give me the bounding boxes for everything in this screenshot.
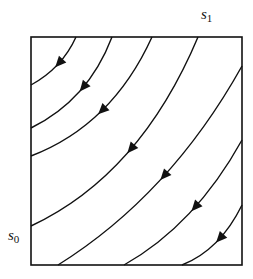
flow-curves xyxy=(31,37,242,265)
label-s1-sub: 1 xyxy=(207,12,213,24)
flow-diagram xyxy=(0,0,253,279)
flow-curve-2 xyxy=(31,37,112,128)
flow-curve-6 xyxy=(124,140,242,265)
flow-curve-7 xyxy=(182,205,242,265)
square-boundary xyxy=(31,37,242,265)
flow-arrowheads xyxy=(52,56,228,246)
flow-curve-5 xyxy=(58,66,242,265)
label-s1: s1 xyxy=(201,7,212,24)
flow-curve-1 xyxy=(31,37,76,85)
flow-curve-3 xyxy=(31,37,152,156)
label-s0-sub: 0 xyxy=(14,233,20,245)
label-s0: s0 xyxy=(8,228,19,245)
